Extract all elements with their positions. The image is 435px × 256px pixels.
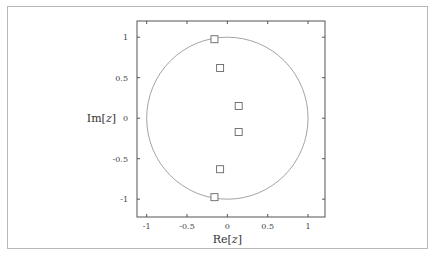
y-tick-label: -0.5	[113, 155, 128, 164]
x-tick-label: -0.5	[179, 222, 194, 231]
unit-circle-path	[147, 37, 308, 199]
square-marker-icon	[235, 103, 242, 110]
y-axis-label: Im[z]	[87, 112, 116, 125]
pole-zero-plot: -1-0.500.51 10.50-0.5-1 Re[z] Im[z]	[0, 0, 435, 256]
square-marker-icon	[217, 166, 224, 173]
square-marker-icon	[211, 36, 218, 43]
x-axis-label: Re[z]	[213, 233, 242, 246]
y-tick-label: 0.5	[115, 74, 128, 83]
plot-frame	[137, 21, 325, 217]
y-axis-ticks: 10.50-0.5-1	[113, 33, 325, 204]
y-tick-label: 0	[123, 114, 128, 123]
x-tick-label: 0.5	[261, 222, 274, 231]
plot-area	[137, 21, 325, 217]
data-markers	[211, 36, 242, 201]
x-tick-label: 0	[225, 222, 230, 231]
unit-circle	[147, 37, 308, 199]
x-tick-label: 1	[306, 222, 311, 231]
y-tick-label: 1	[123, 33, 128, 42]
x-tick-label: -1	[143, 222, 151, 231]
square-marker-icon	[211, 194, 218, 201]
square-marker-icon	[235, 128, 242, 135]
y-tick-label: -1	[120, 195, 128, 204]
square-marker-icon	[217, 64, 224, 71]
